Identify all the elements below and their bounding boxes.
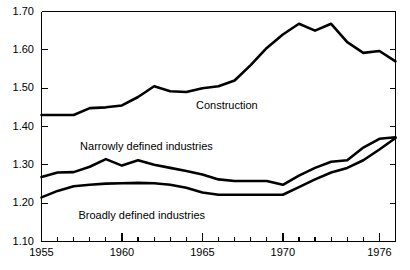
series-annotation-1: Construction [196, 99, 258, 111]
x-tick-label: 1965 [182, 247, 222, 258]
y-tick-label: 1.20 [0, 197, 34, 208]
chart-ticks [42, 12, 396, 242]
y-tick-label: 1.40 [0, 121, 34, 132]
y-tick-label: 1.70 [0, 6, 34, 17]
x-tick-label: 1970 [263, 247, 303, 258]
x-tick-label: 1976 [359, 247, 399, 258]
y-tick-label: 1.60 [0, 44, 34, 55]
y-tick-label: 1.10 [0, 236, 34, 247]
y-tick-label: 1.50 [0, 82, 34, 93]
series-annotation-2: Narrowly defined industries [80, 140, 213, 152]
x-tick-label: 1955 [22, 247, 62, 258]
chart-figure: 1.101.201.301.401.501.601.70 19551960196… [0, 0, 410, 270]
y-tick-label: 1.30 [0, 159, 34, 170]
chart-axes [42, 12, 396, 242]
line-chart-canvas [0, 0, 410, 270]
series-annotation-3: Broadly defined industries [79, 209, 206, 221]
x-tick-label: 1960 [102, 247, 142, 258]
